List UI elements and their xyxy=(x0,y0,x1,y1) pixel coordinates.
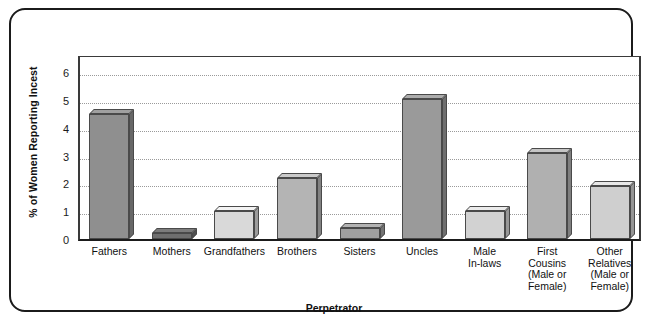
chart-frame: % of Women Reporting Incest FathersMothe… xyxy=(9,8,633,312)
bar xyxy=(277,178,317,239)
x-axis-tick-label: FirstCousins(Male orFemale) xyxy=(516,246,579,292)
y-axis-tick-label: 4 xyxy=(47,123,69,135)
gridline xyxy=(80,75,639,76)
bar-top-face xyxy=(590,181,635,186)
bar xyxy=(527,153,567,239)
bar-side-face xyxy=(254,206,259,239)
bar-top-face xyxy=(340,223,385,228)
bar-face xyxy=(402,99,442,239)
bar-side-face xyxy=(442,94,447,239)
x-axis-tick-label: Brothers xyxy=(266,246,329,258)
x-axis-tick-label: Mothers xyxy=(141,246,204,258)
bar-side-face xyxy=(567,148,572,239)
bar-face xyxy=(590,186,630,239)
y-axis-tick-label: 6 xyxy=(47,67,69,79)
bar-face xyxy=(214,211,254,239)
bar xyxy=(340,228,380,239)
y-axis-tick-label: 5 xyxy=(47,95,69,107)
x-axis-tick-label: Sisters xyxy=(328,246,391,258)
bar-top-face xyxy=(527,148,572,153)
bar xyxy=(152,233,192,239)
y-axis-tick-label: 3 xyxy=(47,151,69,163)
bar xyxy=(465,211,505,239)
y-axis-tick-label: 1 xyxy=(47,206,69,218)
bar-top-face xyxy=(214,206,259,211)
bar xyxy=(214,211,254,239)
bar-side-face xyxy=(129,109,134,239)
bar-face xyxy=(277,178,317,239)
x-axis-tick-label: Grandfathers xyxy=(203,246,266,258)
bar-face xyxy=(465,211,505,239)
bar-top-face xyxy=(465,206,510,211)
gridline xyxy=(80,103,639,104)
bar-face xyxy=(89,114,129,239)
bar-face xyxy=(527,153,567,239)
bar-face xyxy=(340,228,380,239)
bar xyxy=(590,186,630,239)
x-axis-title: Perpetrator xyxy=(78,302,590,314)
bar-face xyxy=(152,233,192,239)
y-axis-tick-label: 0 xyxy=(47,234,69,246)
bar-side-face xyxy=(505,206,510,239)
bar-side-face xyxy=(630,181,635,239)
x-axis-tick-label: MaleIn-laws xyxy=(453,246,516,269)
plot-area xyxy=(78,56,641,241)
x-axis-tick-labels: FathersMothersGrandfathersBrothersSister… xyxy=(78,246,641,302)
bar-top-face xyxy=(277,173,322,178)
x-axis-tick-label: Fathers xyxy=(78,246,141,258)
y-axis-title: % of Women Reporting Incest xyxy=(27,52,43,232)
bar-top-face xyxy=(402,94,447,99)
x-axis-tick-label: OtherRelatives(Male orFemale) xyxy=(578,246,641,292)
bar-side-face xyxy=(317,173,322,239)
bar-top-face xyxy=(152,228,197,233)
gridline xyxy=(80,131,639,132)
bar-top-face xyxy=(89,109,134,114)
x-axis-tick-label: Uncles xyxy=(391,246,454,258)
y-axis-tick-label: 2 xyxy=(47,178,69,190)
bar xyxy=(402,99,442,239)
bar xyxy=(89,114,129,239)
